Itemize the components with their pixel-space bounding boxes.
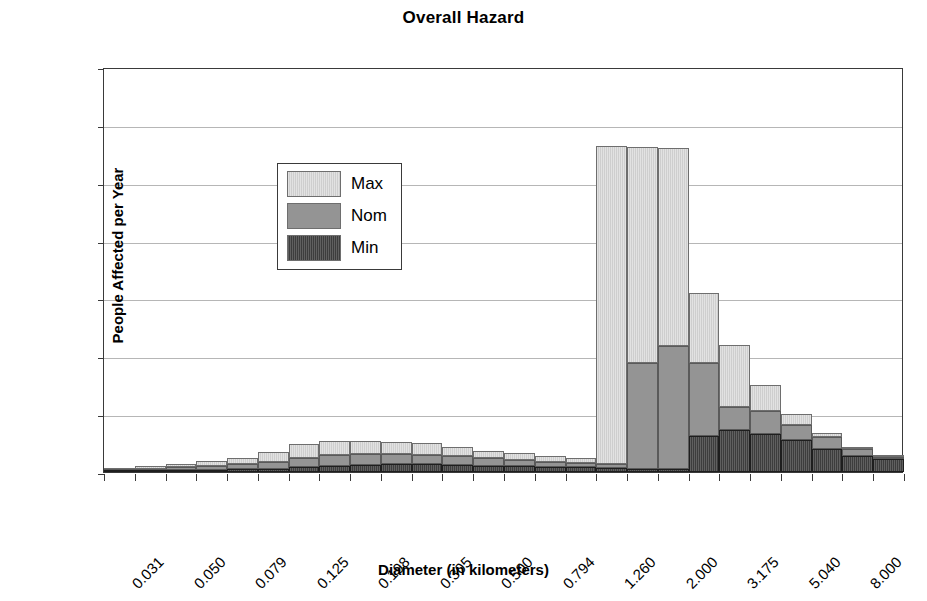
y-tick-mark	[98, 416, 104, 417]
x-tick-mark	[596, 474, 597, 481]
bar-stack[interactable]	[627, 147, 658, 472]
bar-segment-nom	[442, 456, 473, 465]
gridline	[104, 300, 902, 301]
bar-segment-min	[535, 467, 566, 472]
y-tick-mark	[98, 243, 104, 244]
x-tick-mark	[319, 474, 320, 481]
bar-stack[interactable]	[104, 468, 135, 472]
x-tick-mark	[258, 474, 259, 481]
bar-stack[interactable]	[473, 451, 504, 472]
bar-segment-min	[350, 465, 381, 472]
legend-label-max: Max	[351, 174, 383, 194]
gridline	[104, 185, 902, 186]
bar-stack[interactable]	[289, 444, 320, 472]
bar-segment-max	[473, 451, 504, 459]
bar-segment-min	[596, 468, 627, 472]
y-tick-mark	[98, 69, 104, 70]
bar-stack[interactable]	[689, 293, 720, 472]
bar-segment-nom	[842, 449, 873, 457]
bar-stack[interactable]	[319, 441, 350, 472]
bar-segment-max	[442, 447, 473, 456]
bar-stack[interactable]	[227, 458, 258, 472]
bar-segment-max	[658, 148, 689, 346]
x-tick-mark	[904, 474, 905, 481]
x-tick-mark	[535, 474, 536, 481]
x-tick-mark	[504, 474, 505, 481]
gridline	[104, 127, 902, 128]
bar-stack[interactable]	[842, 447, 873, 472]
bar-segment-nom	[689, 363, 720, 436]
page-title: Overall Hazard	[0, 8, 927, 28]
bar-segment-min	[442, 465, 473, 472]
bar-segment-nom	[289, 458, 320, 468]
x-tick-mark	[442, 474, 443, 481]
bar-stack[interactable]	[719, 345, 750, 472]
bar-stack[interactable]	[781, 414, 812, 472]
x-tick-mark	[412, 474, 413, 481]
x-tick-mark	[566, 474, 567, 481]
bar-segment-min	[412, 464, 443, 472]
bar-segment-min	[258, 469, 289, 472]
bar-segment-min	[227, 469, 258, 472]
x-tick-mark	[166, 474, 167, 481]
x-tick-mark	[658, 474, 659, 481]
bar-stack[interactable]	[442, 447, 473, 472]
bar-segment-min	[750, 434, 781, 472]
bar-segment-min	[566, 467, 597, 472]
bar-segment-min	[719, 430, 750, 472]
x-tick-mark	[104, 474, 105, 481]
bar-stack[interactable]	[596, 146, 627, 472]
bar-stack[interactable]	[535, 456, 566, 472]
bar-segment-max	[781, 414, 812, 424]
bar-segment-max	[258, 452, 289, 462]
bar-stack[interactable]	[873, 456, 904, 472]
bar-stack[interactable]	[812, 433, 843, 472]
x-tick-mark	[627, 474, 628, 481]
bar-stack[interactable]	[135, 466, 166, 472]
x-tick-mark	[781, 474, 782, 481]
y-tick-mark	[98, 127, 104, 128]
bar-segment-max	[381, 442, 412, 454]
nom-swatch-icon	[287, 203, 341, 229]
bar-segment-max	[504, 453, 535, 460]
bar-segment-min	[812, 449, 843, 472]
gridline	[104, 358, 902, 359]
bar-stack[interactable]	[196, 461, 227, 472]
x-tick-mark	[873, 474, 874, 481]
bar-segment-min	[104, 470, 135, 472]
bar-segment-min	[166, 470, 197, 472]
bar-stack[interactable]	[750, 385, 781, 472]
bar-segment-min	[873, 459, 904, 472]
bar-segment-nom	[781, 425, 812, 441]
x-tick-mark	[473, 474, 474, 481]
bar-stack[interactable]	[658, 148, 689, 472]
bar-segment-min	[473, 466, 504, 472]
bar-segment-min	[196, 470, 227, 472]
bar-segment-max	[350, 441, 381, 454]
x-tick-mark	[381, 474, 382, 481]
bar-segment-min	[319, 466, 350, 472]
bar-segment-min	[627, 469, 658, 472]
bar-stack[interactable]	[381, 442, 412, 472]
bar-segment-max	[412, 443, 443, 455]
bar-segment-min	[504, 466, 535, 472]
bar-segment-nom	[412, 455, 443, 465]
max-swatch-icon	[287, 171, 341, 197]
bar-segment-nom	[750, 411, 781, 434]
bar-segment-min	[842, 456, 873, 472]
x-tick-mark	[227, 474, 228, 481]
bar-segment-nom	[350, 454, 381, 465]
bar-segment-min	[658, 469, 689, 472]
x-tick-mark	[289, 474, 290, 481]
bar-segment-nom	[719, 407, 750, 430]
bar-stack[interactable]	[412, 443, 443, 472]
bar-segment-min	[135, 470, 166, 472]
legend: Max Nom Min	[277, 163, 402, 270]
bar-stack[interactable]	[166, 464, 197, 472]
bar-segment-max	[627, 147, 658, 363]
bar-stack[interactable]	[504, 453, 535, 472]
bar-stack[interactable]	[350, 441, 381, 472]
bar-segment-max	[750, 385, 781, 411]
bar-stack[interactable]	[566, 458, 597, 472]
bar-stack[interactable]	[258, 452, 289, 472]
